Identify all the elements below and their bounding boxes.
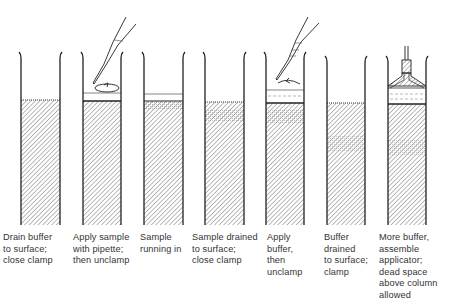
- applicator-icon: [388, 46, 426, 88]
- step-5-caption: Apply buffer, then unclamp: [267, 232, 302, 278]
- column-3: [142, 52, 185, 225]
- column-1: [19, 52, 62, 225]
- step-3-caption: Sample running in: [140, 232, 181, 255]
- column-2: [81, 17, 136, 225]
- column-7: [386, 46, 428, 225]
- column-5: [264, 17, 319, 225]
- step-2-caption: Apply sample with pipette; then unclamp: [73, 232, 129, 267]
- pipette-icon: [93, 17, 136, 84]
- step-1-caption: Drain buffer to surface; close clamp: [3, 232, 53, 267]
- column-4: [203, 52, 246, 225]
- step-4-caption: Sample drained to surface; close clamp: [192, 232, 258, 267]
- swirl-arrow-icon: [95, 83, 119, 92]
- step-7-caption: More buffer, assemble applicator; dead s…: [379, 232, 437, 301]
- step-6-caption: Buffer drained to surface; clamp: [324, 232, 368, 278]
- swirl-arrow-icon: [278, 78, 300, 84]
- column-6: [325, 56, 367, 225]
- pipette-icon: [276, 17, 319, 80]
